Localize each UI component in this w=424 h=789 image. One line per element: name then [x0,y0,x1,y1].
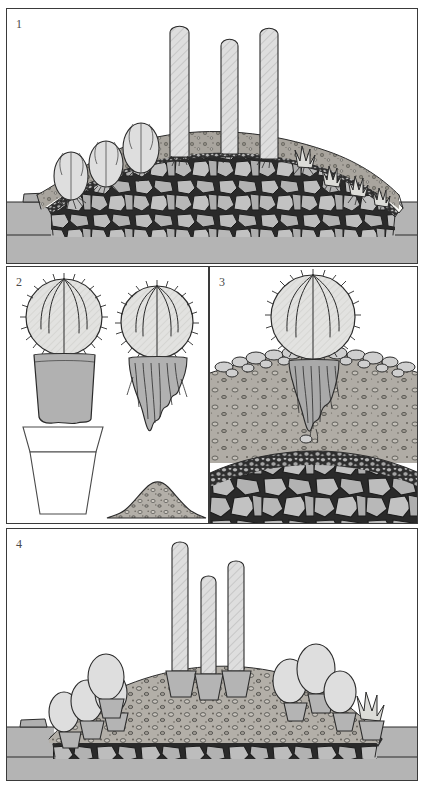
sunken-pot [99,699,124,718]
sunken-pot [284,703,307,721]
illustration-sheet: 1 [0,0,424,789]
panel-2-number: 2 [16,275,22,290]
sunken-pot [359,721,384,740]
sunken-pot [166,671,196,697]
columnar-cactus [257,28,278,168]
panel-1-number: 1 [16,17,22,32]
sunken-pot [80,721,104,739]
columnar-cactus [218,39,238,163]
panel-2: 2 [6,266,209,524]
sunken-pot [195,674,223,700]
panel-4: 4 [6,528,418,781]
panel-3-number: 3 [219,275,225,290]
sunken-pot [333,713,356,731]
intact-rootball-soil-block [34,354,95,424]
panel-1-artwork [7,9,418,264]
sunken-pot [59,732,81,748]
panel-4-artwork [7,529,418,781]
panel-1-columnar-cacti [166,26,278,168]
panel-1: 1 [6,8,418,264]
panel-2-artwork [7,267,209,524]
panel-3: 3 [209,266,418,524]
panel-3-artwork [210,267,418,524]
panel-4-number: 4 [16,537,22,552]
sunken-pot [222,671,251,697]
